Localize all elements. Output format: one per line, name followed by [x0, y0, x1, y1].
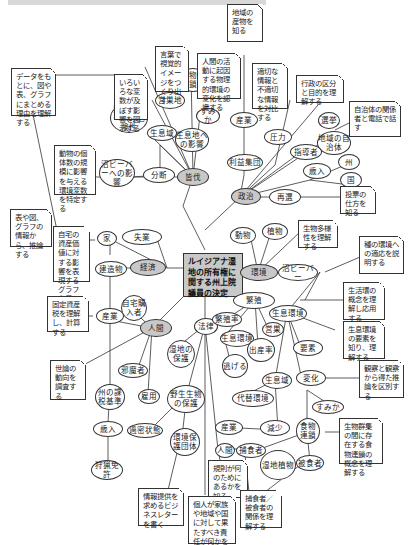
node-breeding[interactable]: 繁殖: [233, 292, 275, 309]
node-local-gov[interactable]: 地域の自治体: [317, 131, 351, 155]
node-decrease[interactable]: 減少: [260, 420, 290, 436]
node-obstacle[interactable]: 邪魔者: [118, 363, 148, 378]
node-env-group[interactable]: 環境保護団体: [170, 428, 200, 456]
node-habitat-env[interactable]: 生息環境: [269, 305, 307, 322]
hub-politics[interactable]: 政治: [231, 188, 261, 205]
node-unemployment[interactable]: 失業: [122, 229, 162, 245]
node-interest-group[interactable]: 利益集団: [227, 154, 263, 171]
note-adaptation: 種の環境への適応を説明する: [359, 236, 404, 274]
node-human-small[interactable]: 人間: [215, 443, 235, 458]
note-appropriate-info: 適切な情報と不適切な情報を対比する: [252, 63, 288, 109]
node-wetland-plants[interactable]: 湿地植物: [260, 450, 296, 480]
hub-economy[interactable]: 経済: [130, 259, 166, 276]
note-food-web: 生物群集の間に存在する食物連鎖の概念を理解する: [339, 418, 383, 464]
node-overcrowd[interactable]: 過密状態: [127, 423, 163, 438]
node-habitat-zone[interactable]: 生息域: [262, 372, 292, 389]
node-fragmentation[interactable]: 分断: [143, 167, 175, 183]
node-industry-bottom[interactable]: 産業: [215, 420, 243, 435]
node-breeding-rate[interactable]: 繁殖率: [212, 312, 242, 327]
note-data-graph: データをもとに、図や表、グラフにまとめる理由を理解する: [11, 68, 56, 116]
node-beaver-effect[interactable]: 沼ビーバーへの影響: [99, 159, 135, 187]
central-topic-box: ルイジアナ湿地の所有権に関する州上院議員の決定: [183, 253, 243, 297]
node-hunting-license[interactable]: 狩猟免許: [91, 460, 123, 480]
note-home-value: 自宅の資産価値に対する影響を表現するグラフを用いる: [53, 226, 90, 282]
node-change[interactable]: 変化: [296, 370, 326, 386]
note-visual-image: 言葉で視覚的イメージをつくり出す: [155, 46, 189, 92]
node-escape[interactable]: 逃げる: [222, 354, 248, 378]
node-plants[interactable]: 植物: [262, 223, 288, 240]
note-voting: 投票の仕方を知る: [340, 186, 376, 214]
node-prey[interactable]: 被食者: [296, 455, 324, 471]
note-business-letter: 情報提供を求めるビジネスレターを書く: [138, 488, 184, 526]
node-food-chain[interactable]: 食物連鎖: [296, 418, 320, 444]
node-pressure[interactable]: 圧力: [264, 129, 292, 145]
node-animals[interactable]: 動物: [230, 227, 256, 244]
note-local-products: 地域の産物を知る: [227, 4, 263, 42]
note-habitat-elements: 生息環境の要素を知り、理解する: [343, 321, 385, 359]
note-life-cycle: 生活環の概念を理解し応用する: [343, 282, 385, 320]
node-industry-left[interactable]: 産業: [96, 308, 124, 324]
node-industry-top[interactable]: 産業: [230, 112, 258, 128]
node-alt-env[interactable]: 代替環境: [232, 390, 274, 407]
node-election[interactable]: 選挙: [318, 112, 340, 129]
note-variables: いろいろな変数が及ぼす影響を図示する: [114, 74, 148, 120]
node-birth-rate[interactable]: 出産率: [247, 338, 275, 362]
node-employment[interactable]: 雇用: [138, 389, 160, 404]
node-habitat-effect[interactable]: 生息地への影響: [175, 128, 209, 152]
note-phone-talk: 自治体の関係者と電話で話す: [349, 101, 401, 137]
note-observation: 観察と観察から得た推論を区別する: [359, 360, 404, 398]
hub-environment[interactable]: 環境: [240, 264, 278, 281]
note-admin-division: 行政の区分と目的を理解する: [296, 75, 344, 103]
node-house[interactable]: 家: [97, 231, 117, 246]
node-elements[interactable]: 要素: [293, 340, 323, 356]
node-reelection[interactable]: 再選: [269, 189, 301, 205]
node-wildlife-protect[interactable]: 野生生物の保護: [167, 385, 205, 413]
note-human-activity: 人間の活動に起因する物理的環境の変化を認識する: [197, 53, 241, 99]
node-habitat-bottom[interactable]: すみか: [312, 400, 344, 414]
hub-human[interactable]: 人間: [140, 319, 172, 337]
note-property-tax: 固定資産税を理解し、計算する: [47, 296, 89, 332]
node-buildings[interactable]: 建造物: [95, 261, 127, 277]
note-biodiversity: 生物多様性を理解する: [298, 220, 338, 248]
note-inference: 表や図、グラフの情報から、推論する: [10, 209, 52, 247]
note-predator-prey: 捕食者／被食者の関係を理解する: [240, 490, 282, 528]
note-public-opinion: 世論の動向を調査する: [50, 360, 86, 400]
node-revenue-left[interactable]: 歳入: [93, 421, 123, 437]
node-nest[interactable]: 営巣: [262, 322, 284, 337]
hub-livelihood[interactable]: 皆伐: [177, 168, 209, 186]
node-leader[interactable]: 指導者: [290, 144, 322, 160]
note-animal-count: 動物の個体数の規模に影響を与える環境変数を特定する: [54, 145, 96, 195]
node-habitat-area[interactable]: 生息域: [147, 125, 177, 141]
node-wetland-protect[interactable]: 湿地の保護: [167, 340, 195, 368]
node-state[interactable]: 州: [338, 154, 360, 170]
node-beaver[interactable]: 沼ビーバー: [278, 264, 318, 281]
node-predator[interactable]: 捕食者: [236, 443, 266, 458]
node-state-tax[interactable]: 州の課税基準: [95, 384, 125, 410]
node-revenue-top[interactable]: 歳入: [303, 163, 331, 179]
note-responsibility: 個人が家族や地域や国に対して果たすべき責任が何かを知る: [188, 496, 236, 544]
node-home-buyer[interactable]: 自宅購入者: [121, 295, 147, 321]
